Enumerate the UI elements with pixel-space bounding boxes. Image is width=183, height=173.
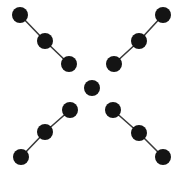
graph-canvas bbox=[0, 0, 183, 173]
graph-node bbox=[37, 33, 53, 49]
graph-node bbox=[105, 102, 121, 118]
graph-node bbox=[61, 56, 77, 72]
graph-node bbox=[62, 102, 78, 118]
graph-node bbox=[12, 7, 28, 23]
graph-node bbox=[84, 80, 100, 96]
graph-node bbox=[131, 125, 147, 141]
graph-node bbox=[106, 56, 122, 72]
graph-node bbox=[13, 149, 29, 165]
graph-node bbox=[131, 33, 147, 49]
graph-diagram bbox=[0, 0, 183, 173]
graph-node bbox=[155, 149, 171, 165]
graph-node bbox=[37, 124, 53, 140]
graph-node bbox=[155, 7, 171, 23]
